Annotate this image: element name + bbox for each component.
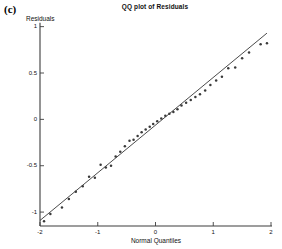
data-point [199, 93, 202, 96]
y-tick-label-2: 0 [21, 116, 37, 123]
x-tick-label-text: -2 [30, 228, 50, 236]
plot-canvas [0, 0, 282, 249]
data-point [259, 43, 262, 46]
data-point [248, 51, 251, 54]
x-tick-label-text: 1 [203, 228, 223, 236]
data-point [114, 155, 117, 158]
data-point [204, 89, 207, 92]
data-point [180, 104, 183, 107]
x-tick-label-1: -1 [88, 228, 108, 236]
data-point [99, 164, 102, 167]
data-point [75, 190, 78, 193]
data-point [140, 131, 143, 134]
data-point [148, 126, 151, 129]
data-points-group [43, 42, 268, 223]
x-tick-label-4: 2 [261, 228, 281, 236]
reference-line-group [40, 33, 267, 220]
data-point [144, 128, 147, 131]
y-tick-label-4: 1 [21, 23, 37, 30]
data-point [215, 79, 218, 82]
data-point [221, 75, 224, 78]
data-point [227, 67, 230, 70]
data-point [94, 177, 97, 180]
qq-plot-figure: (c) QQ plot of Residuals Residuals Norma… [0, 0, 282, 249]
data-point [189, 99, 192, 102]
data-point [194, 96, 197, 99]
y-tick-label-text: 0 [21, 116, 37, 123]
data-point [172, 111, 175, 114]
data-point [164, 114, 167, 117]
data-point [61, 206, 64, 209]
data-point [241, 57, 244, 60]
y-tick-label-3: 0.5 [21, 70, 37, 77]
data-point [156, 120, 159, 123]
x-tick-label-text: 0 [146, 228, 166, 236]
x-tick-label-text: -1 [88, 228, 108, 236]
y-tick-label-text: 0.5 [21, 70, 37, 77]
data-point [105, 166, 108, 169]
x-tick-label-3: 1 [203, 228, 223, 236]
data-point [88, 176, 91, 179]
data-point [136, 135, 139, 138]
data-point [209, 84, 212, 87]
data-point [49, 213, 52, 216]
data-point [132, 139, 135, 142]
y-tick-label-text: -1 [21, 209, 37, 216]
x-tick-label-0: -2 [30, 228, 50, 236]
data-point [185, 101, 188, 104]
tick-marks-group [40, 27, 271, 226]
data-point [119, 151, 122, 154]
data-point [128, 139, 131, 142]
data-point [43, 220, 46, 223]
y-tick-label-text: 1 [21, 23, 37, 30]
data-point [110, 164, 113, 167]
data-point [176, 108, 179, 111]
y-tick-label-0: -1 [21, 209, 37, 216]
x-tick-label-2: 0 [146, 228, 166, 236]
data-point [81, 185, 84, 188]
data-point [168, 113, 171, 116]
data-point [160, 117, 163, 120]
qq-reference-line [40, 33, 267, 220]
x-tick-label-text: 2 [261, 228, 281, 236]
y-tick-label-text: -0.5 [21, 162, 37, 169]
y-tick-label-1: -0.5 [21, 162, 37, 169]
data-point [152, 123, 155, 126]
data-point [68, 198, 71, 201]
data-point [266, 42, 269, 45]
data-point [234, 66, 237, 69]
data-point [124, 145, 127, 148]
